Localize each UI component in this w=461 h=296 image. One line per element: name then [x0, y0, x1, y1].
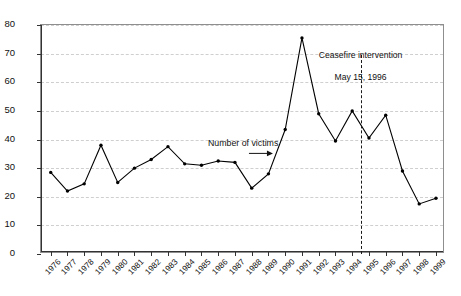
y-tick-label: 60 [0, 77, 15, 87]
plot-area: Ceasefire intervention May 15, 1996 Numb… [40, 24, 444, 253]
y-tick-label: 30 [0, 162, 15, 172]
callout-arrow-icon [41, 25, 445, 254]
y-tick-label: 80 [0, 19, 15, 29]
y-tick-label: 40 [0, 134, 15, 144]
y-tick-label: 0 [0, 248, 15, 258]
callout-arrow-head [267, 151, 273, 157]
y-tick-label: 50 [0, 105, 15, 115]
y-tick-mark [37, 254, 41, 255]
y-tick-label: 20 [0, 191, 15, 201]
y-tick-label: 70 [0, 48, 15, 58]
y-tick-label: 10 [0, 220, 15, 230]
chart-container: 01020304050607080 Ceasefire intervention… [0, 0, 461, 296]
